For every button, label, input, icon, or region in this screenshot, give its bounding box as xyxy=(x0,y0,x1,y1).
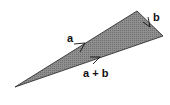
label-a-plus-b: a + b xyxy=(83,67,109,79)
label-b: b xyxy=(153,11,160,23)
label-a: a xyxy=(67,32,74,44)
vector-triangle-diagram: a b a + b xyxy=(0,0,170,105)
